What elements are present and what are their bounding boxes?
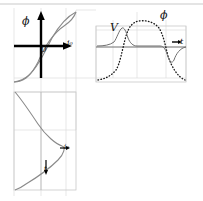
hysteresis-y-axis-arrowhead (37, 11, 45, 20)
hysteresis-y-axis-label: ϕ (22, 16, 30, 27)
waveform-time-label: t (180, 38, 183, 46)
current-waveform-panel (14, 92, 76, 190)
current-time-label: t (44, 166, 47, 173)
diagram-svg (0, 0, 203, 201)
figure-canvas: ϕ i₀ 0 V ϕ t i₀ t (0, 0, 203, 201)
hysteresis-x-axis-label: i₀ (67, 39, 73, 47)
flux-label: ϕ (160, 10, 168, 21)
current-frame (14, 92, 76, 190)
magnetising-current-curve (15, 92, 64, 190)
hysteresis-origin-label: 0 (41, 45, 47, 54)
voltage-label: V (110, 22, 118, 33)
waveform-frame (96, 26, 186, 82)
current-axis-label: i₀ (64, 144, 69, 151)
